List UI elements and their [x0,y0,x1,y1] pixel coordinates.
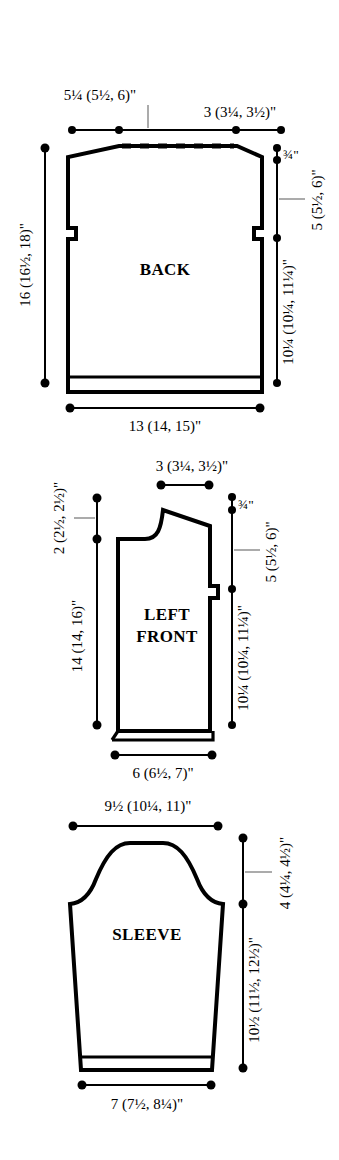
back-bottom-width-label: 13 (14, 15)" [129,418,201,435]
front-dim-dot [228,493,236,501]
back-dim-dot [273,379,281,387]
sleeve-dim-dot [78,1081,87,1090]
sleeve-length-label: 10½ (11½, 12½)" [246,937,263,1043]
front-piece-label-line1: LEFT [144,605,190,624]
schematic-page: 5¼ (5½, 6)" 3 (3¼, 3½)" 16 (16½, 18)" ¾"… [0,0,339,1160]
sleeve-cap-height-label: 4 (4¼, 4½)" [277,837,294,909]
back-dim-dot [68,126,76,134]
back-piece-label: BACK [140,260,191,279]
front-bottom-width-label: 6 (6½, 7)" [132,765,193,782]
front-dim-dot [111,751,120,760]
back-drawing: 5¼ (5½, 6)" 3 (3¼, 3½)" 16 (16½, 18)" ¾"… [0,0,339,440]
front-dim-dot [208,751,217,760]
back-dim-dot [277,126,285,134]
front-dim-dot [157,481,166,490]
front-neck-width-label: 2 (2½, 2½)" [51,482,68,554]
front-neck-depth-label: ¾" [238,497,254,512]
back-dim-dot [273,144,281,152]
front-body-length-label: 10¼ (10¼, 11¼)" [235,605,252,711]
back-body-length-label: 10¼ (10¼, 11¼)" [280,259,297,365]
front-dim-dot [228,721,236,729]
back-dim-dot [66,404,75,413]
sleeve-dim-dot [207,1081,216,1090]
front-armhole-depth-label: 5 (5½, 6)" [263,521,280,582]
back-dim-dot [115,126,123,134]
front-shoulder-width-label: 3 (3¼, 3½)" [156,458,228,475]
sleeve-upper-width-label: 9½ (10¼, 11)" [105,798,192,815]
back-total-length-label: 16 (16½, 18)" [17,223,34,307]
sleeve-piece-label: SLEEVE [112,925,182,944]
back-dim-dot [232,126,240,134]
front-piece-label-line2: FRONT [136,627,198,646]
front-dim-dot [205,481,214,490]
sleeve-outline [70,843,223,1070]
back-neck-width-label: 3 (3¼, 3½)" [204,104,276,121]
back-armhole-depth-label: 5 (5½, 6)" [309,169,326,230]
back-dim-dot [41,144,50,153]
left-front-drawing: 3 (3¼, 3½)" 2 (2½, 2½)" 14 (14, 16)" ¾" … [0,440,339,785]
front-total-length-label: 14 (14, 16)" [69,600,86,672]
back-dim-dot [256,404,265,413]
back-shoulder-width-label: 5¼ (5½, 6)" [64,87,136,104]
front-dim-dot [93,494,102,503]
schematic-sleeve: 9½ (10¼, 11)" 4 (4¼, 4½)" 10½ (11½, 12½)… [0,785,339,1160]
schematic-left-front: 3 (3¼, 3½)" 2 (2½, 2½)" 14 (14, 16)" ¾" … [0,440,339,785]
sleeve-dim-dot [214,822,223,831]
sleeve-cuff-width-label: 7 (7½, 8¼)" [111,1096,183,1113]
sleeve-drawing: 9½ (10¼, 11)" 4 (4¼, 4½)" 10½ (11½, 12½)… [0,785,339,1160]
back-neck-depth-label: ¾" [283,147,299,162]
back-dim-dot [41,379,50,388]
sleeve-dim-dot [239,1064,248,1073]
schematic-back: 5¼ (5½, 6)" 3 (3¼, 3½)" 16 (16½, 18)" ¾"… [0,0,339,440]
sleeve-dim-dot [69,822,78,831]
sleeve-dim-dot [239,834,248,843]
front-dim-dot [93,721,102,730]
